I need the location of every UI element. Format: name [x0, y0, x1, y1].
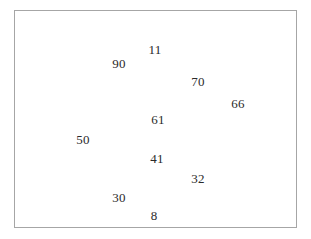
data-point-label: 70 — [191, 75, 204, 88]
data-point-label: 66 — [231, 97, 244, 110]
data-point-label: 50 — [76, 133, 89, 146]
data-point-label: 90 — [112, 57, 125, 70]
data-point-label: 11 — [149, 43, 162, 56]
data-point-label: 30 — [112, 191, 125, 204]
figure-canvas: 1190706661504132308 — [0, 0, 311, 239]
data-point-label: 41 — [150, 152, 163, 165]
plot-frame: 1190706661504132308 — [14, 10, 297, 228]
data-point-label: 8 — [151, 209, 158, 222]
data-point-label: 32 — [191, 172, 204, 185]
data-point-label: 61 — [151, 113, 164, 126]
